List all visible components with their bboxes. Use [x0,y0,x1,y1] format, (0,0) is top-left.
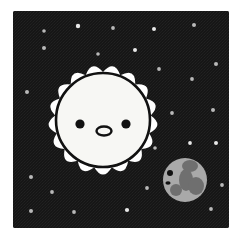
patch-right-lobe [188,177,204,195]
star-dot-8 [133,48,137,52]
star-dot-11 [190,77,194,81]
star-dot-25 [209,207,213,211]
star-dot-22 [29,209,33,213]
moon-eye-icon [167,170,173,176]
patch-lower-left [170,184,182,196]
star-dot-17 [153,146,157,150]
star-dot-14 [170,111,174,115]
star-dot-9 [214,62,218,66]
sun-and-moon-scene [0,0,242,240]
star-dot-13 [211,108,215,112]
star-dot-18 [29,175,33,179]
star-dot-15 [214,141,218,145]
star-dot-20 [145,186,149,190]
star-dot-7 [96,52,100,56]
star-dot-21 [220,183,224,187]
star-dot-19 [50,190,54,194]
star-dot-12 [25,90,29,94]
sun-left-eye-icon [75,119,84,128]
sun-mouth-icon [97,127,112,136]
star-dot-2 [76,24,80,28]
star-dot-10 [157,67,161,71]
moon [163,158,207,202]
star-dot-24 [125,208,129,212]
sun-right-eye-icon [121,119,130,128]
star-dot-4 [152,27,156,31]
star-dot-23 [72,210,76,214]
star-dot-5 [192,23,196,27]
star-dot-6 [42,46,46,50]
sun-disc [56,73,150,167]
star-dot-16 [188,141,192,145]
moon-mouth-icon [165,181,170,185]
star-dot-3 [111,26,115,30]
star-dot-1 [42,29,46,33]
illustration-frame: Sun and moon in a starry night sky Cute … [0,0,242,240]
